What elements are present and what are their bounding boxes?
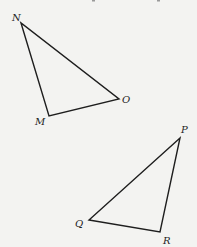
triangle-pqr-outline <box>89 138 180 232</box>
vertex-label-q: Q <box>75 218 83 229</box>
vertex-label-m: M <box>34 116 46 127</box>
top-edge-mark <box>92 0 95 2</box>
top-edge-mark <box>157 0 160 2</box>
vertex-label-n: N <box>11 12 22 23</box>
vertex-label-r: R <box>162 235 171 246</box>
triangle-mno: N M O <box>11 12 130 127</box>
vertex-label-o: O <box>122 94 130 105</box>
geometry-diagram: N M O P Q R <box>0 0 197 247</box>
triangle-mno-outline <box>21 23 119 116</box>
vertex-label-p: P <box>180 124 188 135</box>
diagram-svg: N M O P Q R <box>0 0 197 247</box>
triangle-pqr: P Q R <box>75 124 188 246</box>
